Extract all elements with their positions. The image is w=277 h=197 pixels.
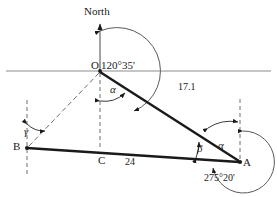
angle-beta-at-a-label: β: [197, 143, 202, 154]
point-b-label: B: [13, 141, 20, 152]
length-ba-label: 24: [125, 157, 135, 167]
bearing-at-a-label: 275°20': [204, 173, 235, 183]
angle-gamma-at-b-label: γ: [24, 126, 28, 137]
segment-bo-dashed: [29, 73, 99, 146]
diagram-canvas: [0, 0, 277, 197]
length-oa-label: 17.1: [178, 82, 196, 92]
bearing-at-o-label: 120°35': [101, 60, 135, 71]
point-c-label: C: [98, 155, 105, 166]
point-a-label: A: [243, 157, 251, 168]
vertex-b: [25, 146, 29, 150]
angle-alpha-at-o-label: α: [110, 84, 116, 95]
geometry-diagram: North O 120°35' B C A 17.1 24 275°20' α …: [0, 0, 277, 197]
angle-arc-alpha-at-a: [208, 121, 238, 128]
north-label: North: [84, 6, 110, 17]
angle-alpha-at-a-label: α: [218, 140, 224, 151]
angle-arc-gamma-at-b: [27, 124, 45, 131]
vertex-a: [238, 160, 242, 164]
point-o-label: O: [91, 60, 99, 71]
